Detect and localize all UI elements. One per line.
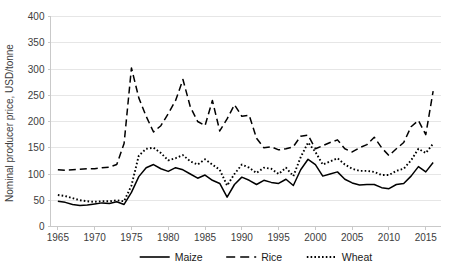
- y-tick-label: 400: [28, 11, 45, 22]
- legend-label-maize: Maize: [175, 251, 203, 263]
- x-tick-label: 1975: [120, 232, 143, 243]
- x-tick-label: 1980: [157, 232, 180, 243]
- y-tick-label: 300: [28, 64, 45, 75]
- x-axis-tick-labels: 1965197019751980198519901995200020052010…: [47, 232, 438, 243]
- y-tick-label: 50: [33, 195, 45, 206]
- legend-label-rice: Rice: [261, 251, 282, 263]
- x-tick-label: 1990: [231, 232, 254, 243]
- y-tick-label: 100: [28, 169, 45, 180]
- x-tick-label: 1995: [267, 232, 290, 243]
- x-tick-label: 1970: [84, 232, 107, 243]
- y-tick-label: 0: [39, 221, 45, 232]
- x-tick-label: 2010: [378, 232, 401, 243]
- y-tick-label: 200: [28, 116, 45, 127]
- y-axis-title: Nominal producer price, USD/tonne: [4, 44, 15, 202]
- price-line-chart: 050100150200250300350400 196519701975198…: [0, 0, 449, 273]
- y-tick-label: 350: [28, 37, 45, 48]
- x-tick-label: 1985: [194, 232, 217, 243]
- y-tick-label: 150: [28, 142, 45, 153]
- chart-container: 050100150200250300350400 196519701975198…: [0, 0, 449, 273]
- x-tick-label: 2000: [304, 232, 327, 243]
- y-tick-label: 250: [28, 90, 45, 101]
- x-tick-label: 2015: [415, 232, 438, 243]
- x-tick-label: 1965: [47, 232, 70, 243]
- x-tick-label: 2005: [341, 232, 364, 243]
- legend-label-wheat: Wheat: [342, 251, 372, 263]
